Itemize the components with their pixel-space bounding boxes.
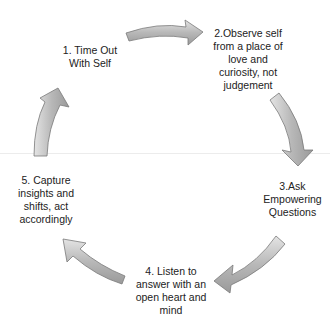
arrow-step3-to-step4 [214, 236, 285, 293]
step-1-label: 1. Time Out With Self [50, 44, 130, 70]
step-3-label: 3.Ask Empowering Questions [255, 180, 330, 219]
step-2-label: 2.Observe self from a place of love and … [200, 27, 296, 92]
arrow-step5-to-step1 [34, 88, 69, 156]
arrow-step4-to-step5 [63, 239, 125, 284]
arrow-step1-to-step2 [126, 20, 203, 45]
step-5-label: 5. Capture insights and shifts, act acco… [8, 174, 84, 226]
arrow-step2-to-step3 [270, 93, 313, 166]
step-4-label: 4. Listen to answer with an open heart a… [130, 265, 212, 317]
